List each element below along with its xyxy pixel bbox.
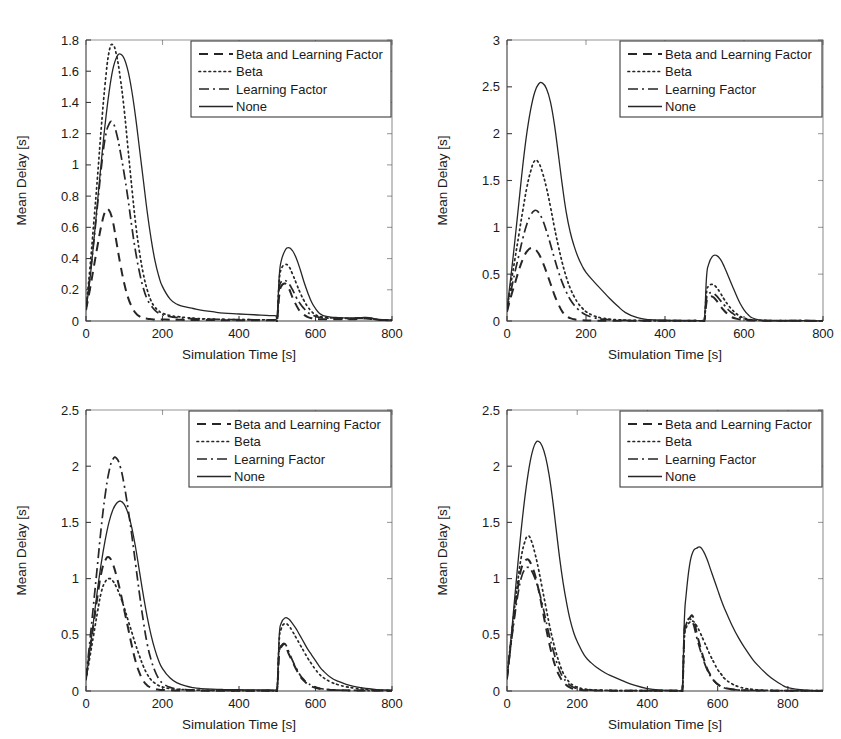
- x-tick-label: 200: [152, 696, 174, 711]
- y-tick-label: 3: [493, 33, 500, 48]
- legend[interactable]: Beta and Learning FactorBetaLearning Fac…: [189, 411, 391, 487]
- y-tick-label: 1.6: [61, 64, 79, 79]
- y-tick-label: 0: [72, 684, 79, 699]
- legend-label: Beta: [665, 434, 693, 449]
- x-tick-label: 600: [733, 326, 755, 341]
- legend[interactable]: Beta and Learning FactorBetaLearning Fac…: [191, 41, 391, 117]
- legend-label: None: [665, 469, 696, 484]
- y-tick-label: 2.5: [482, 403, 500, 418]
- subplot-top-right: 00.511.522.530200400600800Simulation Tim…: [421, 0, 841, 370]
- legend-label: Beta and Learning Factor: [236, 47, 383, 62]
- series-line-dash-dot: [86, 121, 392, 321]
- legend-label: None: [236, 99, 267, 114]
- x-axis-label: Simulation Time [s]: [608, 347, 722, 362]
- series-line-dashed: [507, 248, 823, 322]
- y-tick-label: 2: [72, 459, 79, 474]
- y-axis-label: Mean Delay [s]: [435, 135, 450, 225]
- y-tick-label: 0.6: [61, 220, 79, 235]
- x-tick-label: 400: [228, 326, 250, 341]
- y-tick-label: 1: [72, 571, 79, 586]
- y-tick-label: 1.5: [482, 173, 500, 188]
- x-tick-label: 200: [152, 326, 174, 341]
- chart-top-left: 00.20.40.60.811.21.41.61.80200400600800S…: [0, 0, 420, 370]
- series-line-dashed: [86, 209, 392, 322]
- y-tick-label: 1: [493, 220, 500, 235]
- y-axis-label: Mean Delay [s]: [14, 505, 29, 595]
- subplot-bottom-left: 00.511.522.50200400600800Simulation Time…: [0, 370, 420, 739]
- y-tick-label: 1.2: [61, 126, 79, 141]
- x-tick-label: 600: [305, 696, 327, 711]
- series-line-dashed: [507, 559, 823, 694]
- x-tick-label: 0: [503, 696, 510, 711]
- legend-label: Beta: [236, 64, 264, 79]
- y-tick-label: 2: [493, 126, 500, 141]
- y-tick-label: 1.8: [61, 33, 79, 48]
- x-tick-label: 0: [82, 326, 89, 341]
- y-tick-label: 0: [493, 314, 500, 329]
- series-line-dash-dot: [507, 567, 823, 694]
- x-tick-label: 600: [305, 326, 327, 341]
- y-tick-label: 2.5: [61, 403, 79, 418]
- legend-label: None: [234, 469, 265, 484]
- legend[interactable]: Beta and Learning FactorBetaLearning Fac…: [620, 41, 822, 117]
- legend-label: Learning Factor: [665, 82, 757, 97]
- legend-label: Beta: [234, 434, 262, 449]
- y-tick-label: 0.8: [61, 189, 79, 204]
- subplot-top-left: 00.20.40.60.811.21.41.61.80200400600800S…: [0, 0, 420, 370]
- legend-label: Beta and Learning Factor: [234, 417, 381, 432]
- y-tick-label: 2: [493, 459, 500, 474]
- x-tick-label: 800: [381, 326, 403, 341]
- x-tick-label: 400: [637, 696, 659, 711]
- y-tick-label: 0.4: [61, 251, 79, 266]
- series-line-solid: [507, 82, 823, 323]
- x-tick-label: 800: [812, 326, 834, 341]
- legend-label: None: [665, 99, 696, 114]
- y-tick-label: 2.5: [482, 79, 500, 94]
- y-tick-label: 0.2: [61, 282, 79, 297]
- legend-label: Beta and Learning Factor: [665, 417, 812, 432]
- legend-label: Beta: [665, 64, 693, 79]
- x-axis-label: Simulation Time [s]: [182, 717, 296, 732]
- x-tick-label: 400: [654, 326, 676, 341]
- y-axis-label: Mean Delay [s]: [435, 505, 450, 595]
- legend-label: Learning Factor: [665, 452, 757, 467]
- x-tick-label: 200: [575, 326, 597, 341]
- series-line-solid: [86, 501, 392, 693]
- y-axis-label: Mean Delay [s]: [14, 135, 29, 225]
- figure-panel: 00.20.40.60.811.21.41.61.80200400600800S…: [0, 0, 841, 739]
- series-line-dotted: [507, 536, 823, 694]
- subplot-bottom-right: 00.511.522.50200400600800Simulation Time…: [421, 370, 841, 739]
- x-axis-label: Simulation Time [s]: [608, 717, 722, 732]
- series-group: [86, 457, 392, 693]
- legend-label: Learning Factor: [234, 452, 326, 467]
- series-line-dotted: [507, 160, 823, 322]
- series-line-dash-dot: [507, 210, 823, 322]
- x-tick-label: 800: [381, 696, 403, 711]
- series-group: [507, 82, 823, 323]
- chart-bottom-left: 00.511.522.50200400600800Simulation Time…: [0, 370, 420, 739]
- legend-label: Learning Factor: [236, 82, 328, 97]
- y-tick-label: 1.4: [61, 95, 79, 110]
- y-tick-label: 1: [72, 157, 79, 172]
- chart-top-right: 00.511.522.530200400600800Simulation Tim…: [421, 0, 841, 370]
- legend[interactable]: Beta and Learning FactorBetaLearning Fac…: [620, 411, 822, 487]
- y-tick-label: 0.5: [482, 627, 500, 642]
- chart-bottom-right: 00.511.522.50200400600800Simulation Time…: [421, 370, 841, 739]
- y-tick-label: 1.5: [61, 515, 79, 530]
- x-tick-label: 0: [503, 326, 510, 341]
- series-line-dash-dot: [86, 457, 392, 693]
- x-tick-label: 400: [228, 696, 250, 711]
- y-tick-label: 0: [493, 684, 500, 699]
- series-line-dashed: [86, 557, 392, 693]
- y-tick-label: 1.5: [482, 515, 500, 530]
- y-tick-label: 0.5: [61, 627, 79, 642]
- y-tick-label: 0.5: [482, 267, 500, 282]
- x-tick-label: 200: [566, 696, 588, 711]
- x-axis-label: Simulation Time [s]: [182, 347, 296, 362]
- x-tick-label: 800: [777, 696, 799, 711]
- y-tick-label: 0: [72, 314, 79, 329]
- series-line-dotted: [86, 579, 392, 694]
- y-tick-label: 1: [493, 571, 500, 586]
- legend-label: Beta and Learning Factor: [665, 47, 812, 62]
- x-tick-label: 600: [707, 696, 729, 711]
